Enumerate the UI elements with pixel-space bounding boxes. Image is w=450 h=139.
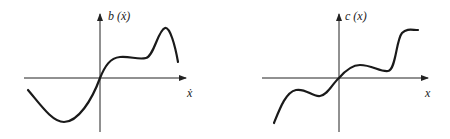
right-x-label: x [424,86,431,100]
left-curve [28,28,178,122]
right-curve [274,30,418,123]
left-plot: b (ẋ) ẋ [24,9,193,132]
left-x-label: ẋ [186,86,193,100]
left-y-label: b (ẋ) [108,9,130,23]
diagram-canvas: b (ẋ) ẋ c (x) x [0,0,450,139]
right-plot: c (x) x [262,9,431,132]
right-y-label: c (x) [345,9,367,23]
